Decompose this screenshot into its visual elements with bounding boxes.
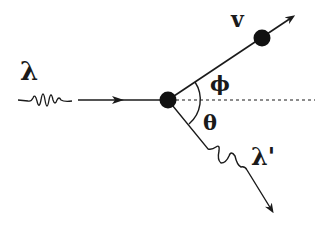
diagram-svg: λ v ϕ θ λ': [0, 0, 325, 228]
incident-photon-wave: [18, 94, 72, 106]
recoil-electron-dot: [254, 30, 271, 47]
photon-angle-label: θ: [203, 110, 217, 135]
collision-point-dot: [160, 92, 177, 109]
electron-angle-label: ϕ: [210, 71, 230, 96]
compton-diagram: λ v ϕ θ λ': [0, 0, 325, 228]
incident-wavelength-label: λ: [20, 56, 38, 86]
electron-velocity-label: v: [230, 6, 245, 32]
scattered-wavelength-label: λ': [251, 142, 275, 171]
angle-arc: [189, 82, 200, 124]
